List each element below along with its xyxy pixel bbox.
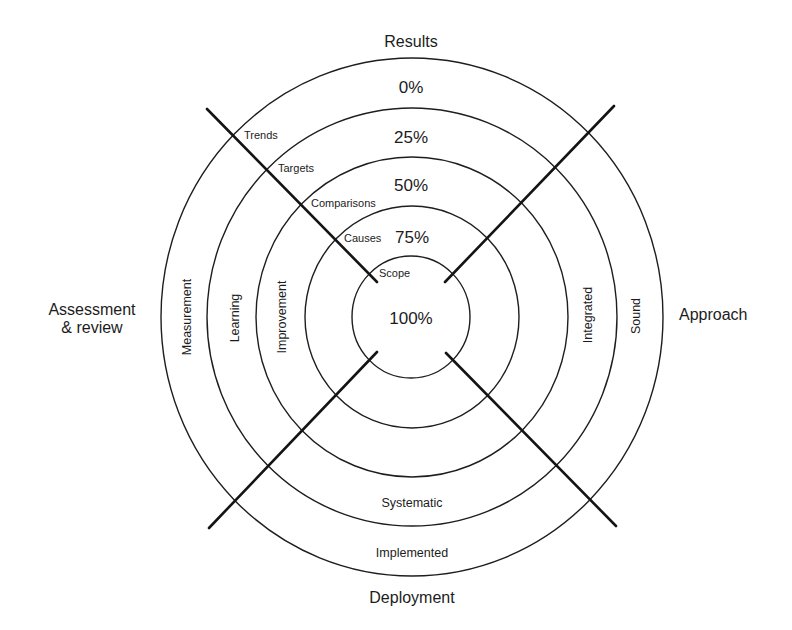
assessment-label-improvement: Improvement [275,280,289,353]
percent-label-100: 100% [389,309,432,328]
results-label-comparisons: Comparisons [311,197,376,209]
dimension-results-label: Results [384,33,437,50]
dimension-approach-label: Approach [679,306,748,323]
assessment-label-measurement: Measurement [180,278,194,355]
results-label-scope: Scope [379,267,410,279]
radar-maturity-diagram: Results Approach Deployment Assessment &… [0,0,792,630]
dimension-deployment-label: Deployment [369,589,455,606]
deployment-label-systematic: Systematic [381,496,442,510]
deployment-label-implemented: Implemented [376,546,448,560]
approach-label-sound: Sound [629,298,643,334]
divider-top-left [207,109,377,282]
percent-label-75: 75% [395,228,429,247]
divider-top-right [445,106,614,282]
percent-label-50: 50% [394,176,428,195]
results-label-causes: Causes [344,232,382,244]
results-label-trends: Trends [244,129,278,141]
assessment-label-learning: Learning [228,294,242,343]
divider-bottom-left [209,352,377,528]
percent-label-25: 25% [394,128,428,147]
approach-label-integrated: Integrated [581,287,595,343]
dimension-assessment-label-line1: Assessment [48,301,136,318]
dimension-assessment-label-line2: & review [61,319,123,336]
percent-label-0: 0% [399,78,424,97]
results-label-targets: Targets [278,162,315,174]
divider-bottom-right [446,353,616,526]
